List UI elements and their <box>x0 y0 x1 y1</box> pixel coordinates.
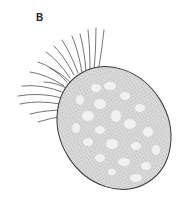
cell-body <box>34 45 185 201</box>
ciliate-illustration <box>0 0 185 201</box>
